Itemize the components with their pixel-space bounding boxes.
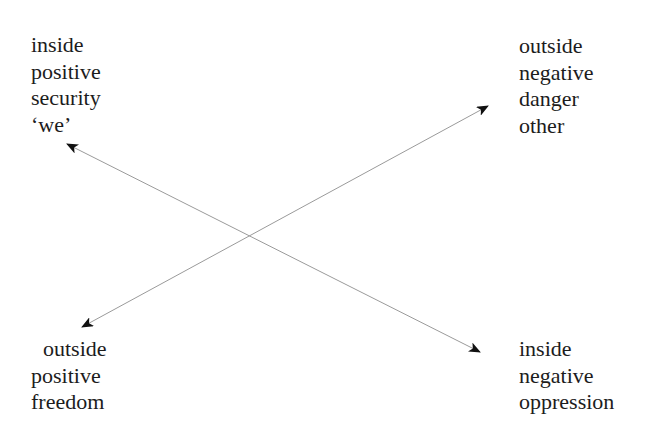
label-line: freedom <box>31 389 107 416</box>
arrow-outside-positive-to-outside-negative <box>82 106 488 327</box>
label-line: positive <box>31 363 107 390</box>
label-top-right-outside-negative: outside negative danger other <box>519 33 594 139</box>
label-line: other <box>519 113 594 140</box>
label-line: oppression <box>519 389 614 416</box>
label-line: inside <box>519 336 614 363</box>
label-bottom-left-outside-positive: outside positive freedom <box>31 336 107 416</box>
arrow-inside-positive-to-inside-negative <box>67 144 480 352</box>
label-top-left-inside-positive: inside positive security ‘we’ <box>31 32 101 138</box>
label-line: ‘we’ <box>31 112 101 139</box>
label-line: negative <box>519 363 614 390</box>
label-line: negative <box>519 60 594 87</box>
label-line: positive <box>31 59 101 86</box>
label-line: outside <box>31 336 107 363</box>
label-line: inside <box>31 32 101 59</box>
label-bottom-right-inside-negative: inside negative oppression <box>519 336 614 416</box>
label-line: outside <box>519 33 594 60</box>
label-line: security <box>31 85 101 112</box>
label-line: danger <box>519 86 594 113</box>
diagram-canvas: inside positive security ‘we’ outside ne… <box>0 0 651 430</box>
